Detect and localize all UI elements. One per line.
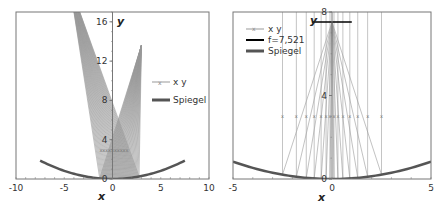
left-legend-spiegel: Spiegel xyxy=(173,95,206,105)
left-y-axis-label: y xyxy=(117,15,125,28)
svg-text:x: x xyxy=(252,25,256,32)
right-x-axis-label: x xyxy=(317,191,326,204)
right-legend: x x y f=7,521 Spiegel xyxy=(246,24,304,56)
right-legend-xy: x y xyxy=(268,24,282,34)
left-legend: x x y Spiegel xyxy=(152,77,206,105)
chart-labels: y x x x y Spiegel y x x x y f=7,521 Spie… xyxy=(0,0,446,213)
right-legend-spiegel: Spiegel xyxy=(268,46,301,56)
right-y-axis-label: y xyxy=(310,14,318,27)
svg-text:x: x xyxy=(158,79,162,86)
left-x-axis-label: x xyxy=(97,190,106,203)
left-legend-xy: x y xyxy=(173,77,187,87)
right-legend-focal: f=7,521 xyxy=(268,35,304,45)
